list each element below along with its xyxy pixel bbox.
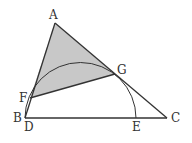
label-d: D xyxy=(24,120,34,134)
label-g: G xyxy=(117,63,127,77)
label-c: C xyxy=(171,111,180,125)
label-e: E xyxy=(132,120,141,134)
label-a: A xyxy=(48,8,58,22)
geometry-diagram: A F G B D E C xyxy=(0,0,192,143)
label-b: B xyxy=(13,111,22,125)
label-f: F xyxy=(19,91,27,105)
